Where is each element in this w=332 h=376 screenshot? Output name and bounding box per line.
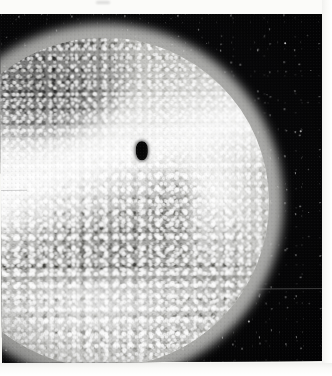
paper-mark-top	[96, 1, 110, 4]
paper-mark-bottom	[313, 367, 322, 373]
photograph-sheet	[0, 0, 332, 376]
left-edge-scuff-defect	[1, 190, 27, 191]
sphere-disc	[0, 36, 270, 363]
photographic-print	[0, 12, 324, 363]
star-speck	[300, 130, 302, 132]
star-speck	[319, 256, 320, 257]
paper-margin-bottom	[0, 363, 332, 376]
paper-margin-top	[0, 0, 332, 14]
star-speck	[308, 212, 309, 213]
star-speck	[310, 70, 311, 71]
star-speck	[294, 298, 295, 299]
sphere	[0, 36, 270, 363]
star-speck	[284, 42, 286, 44]
print-image-area	[0, 12, 324, 363]
paper-margin-right	[322, 0, 332, 376]
dark-central-aperture	[136, 141, 148, 160]
